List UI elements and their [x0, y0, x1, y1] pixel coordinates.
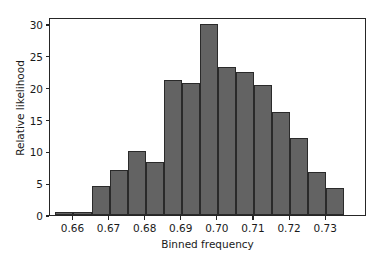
- x-tick-label: 0.72: [272, 221, 306, 235]
- y-tick-label: 20: [30, 82, 43, 96]
- x-tick-mark: [72, 216, 73, 220]
- x-tick-label: 0.73: [308, 221, 342, 235]
- histogram-bar: [290, 138, 308, 215]
- x-tick-label: 0.67: [92, 221, 126, 235]
- histogram-bar: [92, 186, 110, 215]
- x-tick-label: 0.69: [164, 221, 198, 235]
- y-tick-label: 5: [36, 177, 43, 191]
- y-tick-label: 30: [30, 18, 43, 32]
- x-axis-label: Binned frequency: [49, 238, 366, 250]
- histogram-figure: 051015202530 0.660.670.680.690.700.710.7…: [0, 0, 384, 269]
- bars-layer: [50, 19, 365, 215]
- histogram-bar: [55, 212, 73, 215]
- histogram-bar: [164, 80, 182, 215]
- histogram-bar: [218, 67, 236, 215]
- histogram-bar: [128, 151, 146, 215]
- y-tick-label: 15: [30, 114, 43, 128]
- plot-area: [49, 18, 366, 216]
- histogram-bar: [200, 24, 218, 215]
- y-tick-label: 10: [30, 145, 43, 159]
- x-tick-mark: [180, 216, 181, 220]
- x-tick-mark: [289, 216, 290, 220]
- y-tick-label: 25: [30, 50, 43, 64]
- histogram-bar: [73, 212, 91, 215]
- x-tick-mark: [252, 216, 253, 220]
- y-axis-label: Relative likelihood: [14, 9, 26, 207]
- x-tick-mark: [216, 216, 217, 220]
- histogram-bar: [236, 72, 254, 215]
- histogram-bar: [254, 85, 272, 215]
- x-tick-label: 0.68: [128, 221, 162, 235]
- histogram-bar: [110, 170, 128, 215]
- y-tick-label: 0: [36, 209, 43, 223]
- x-tick-mark: [325, 216, 326, 220]
- x-tick-label: 0.71: [236, 221, 270, 235]
- x-axis: 0.660.670.680.690.700.710.720.73: [49, 216, 366, 238]
- x-tick-label: 0.70: [200, 221, 234, 235]
- x-tick-mark: [108, 216, 109, 220]
- histogram-bar: [182, 83, 200, 215]
- x-tick-label: 0.66: [55, 221, 89, 235]
- histogram-bar: [146, 162, 164, 215]
- histogram-bar: [272, 112, 290, 215]
- histogram-bar: [308, 172, 326, 215]
- x-tick-mark: [144, 216, 145, 220]
- histogram-bar: [326, 188, 344, 215]
